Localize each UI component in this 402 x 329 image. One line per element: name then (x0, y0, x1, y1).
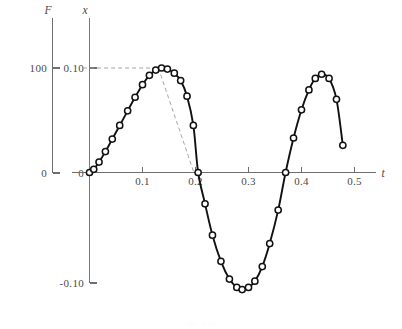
data-point-marker (109, 136, 115, 142)
data-point-marker (125, 108, 131, 114)
data-point-marker (195, 169, 201, 175)
data-point-marker (252, 278, 258, 284)
data-point-marker (96, 159, 102, 165)
guide-line-diagonal (158, 68, 194, 173)
data-point-marker (312, 75, 318, 81)
figure-caption: Fig. 4-13 (0, 320, 402, 328)
data-point-marker (245, 284, 251, 290)
data-point-marker (326, 75, 332, 81)
data-point-marker (298, 107, 304, 113)
y-axis-ticklabel-neg0.10: -0.10 (60, 277, 85, 289)
data-point-marker (117, 122, 123, 128)
data-point-marker (171, 70, 177, 76)
data-point-marker (190, 122, 196, 128)
plot-canvas: F 100 0 x 0.10 0 -0.10 0.1 0.2 0.3 0.4 (0, 0, 402, 329)
secondary-axis-F: F 100 0 (30, 4, 60, 179)
data-point-marker (306, 87, 312, 93)
data-point-marker (340, 142, 346, 148)
data-point-marker (146, 72, 152, 78)
data-point-marker (267, 240, 273, 246)
secondary-axis-ticklabel-0: 0 (41, 167, 47, 179)
data-point-marker (290, 135, 296, 141)
data-point-marker (91, 166, 97, 172)
x-axis-label: t (381, 167, 385, 179)
data-point-marker (333, 96, 339, 102)
y-axis-ticklabel-0.10: 0.10 (64, 62, 85, 74)
construction-guides (83, 68, 194, 173)
x-axis: 0.1 0.2 0.3 0.4 0.5 t (72, 167, 385, 187)
data-point-marker (283, 169, 289, 175)
figure-container: F 100 0 x 0.10 0 -0.10 0.1 0.2 0.3 0.4 (0, 0, 402, 329)
data-point-marker (239, 286, 245, 292)
x-axis-ticklabel-0.5: 0.5 (347, 175, 362, 187)
secondary-axis-ticklabel-100: 100 (30, 62, 48, 74)
x-axis-ticklabel-0.3: 0.3 (241, 175, 256, 187)
data-point-marker (319, 71, 325, 77)
data-point-marker (202, 201, 208, 207)
data-point-marker (102, 149, 108, 155)
data-point-marker (132, 94, 138, 100)
data-point-marker (259, 263, 265, 269)
y-axis-label: x (81, 4, 88, 16)
data-point-marker (226, 276, 232, 282)
x-axis-ticklabel-0.1: 0.1 (135, 175, 150, 187)
secondary-axis-label: F (43, 4, 52, 16)
data-point-marker (139, 82, 145, 88)
x-axis-ticklabel-0.4: 0.4 (294, 175, 309, 187)
data-point-marker (164, 66, 170, 72)
data-point-marker (275, 207, 281, 213)
data-point-marker (184, 93, 190, 99)
data-point-marker (218, 258, 224, 264)
data-point-marker (209, 232, 215, 238)
data-point-marker (178, 77, 184, 83)
y-axis: x 0.10 0 -0.10 (60, 4, 97, 289)
